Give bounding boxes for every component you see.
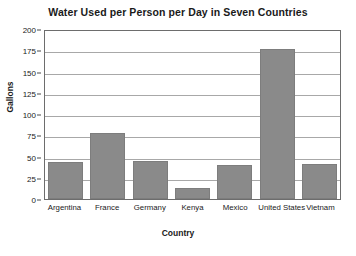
y-tick-label: 200 bbox=[23, 26, 36, 35]
chart-figure: Water Used per Person per Day in Seven C… bbox=[0, 0, 356, 256]
x-tick-label: Germany bbox=[130, 203, 169, 212]
y-tick-mark bbox=[37, 72, 41, 73]
x-tick-label: United States bbox=[258, 203, 297, 212]
bar-series bbox=[45, 31, 340, 199]
y-tick-label: 50 bbox=[27, 153, 36, 162]
x-axis-title: Country bbox=[0, 228, 356, 238]
y-axis-tick-labels: 0255075100125150175200 bbox=[0, 30, 41, 200]
bar-united-states bbox=[260, 49, 295, 199]
y-tick-label: 0 bbox=[32, 196, 36, 205]
y-tick-label: 75 bbox=[27, 132, 36, 141]
y-tick-label: 25 bbox=[27, 174, 36, 183]
bar-argentina bbox=[48, 162, 83, 199]
x-axis-tick-labels: ArgentinaFranceGermanyKenyaMexicoUnited … bbox=[44, 203, 341, 212]
bar-vietnam bbox=[302, 164, 337, 199]
y-tick-mark bbox=[37, 93, 41, 94]
chart-title: Water Used per Person per Day in Seven C… bbox=[0, 6, 356, 18]
y-tick-mark bbox=[37, 136, 41, 137]
bar-mexico bbox=[217, 165, 252, 199]
x-tick-label: Kenya bbox=[173, 203, 212, 212]
x-tick-label: France bbox=[88, 203, 127, 212]
y-tick-mark bbox=[37, 178, 41, 179]
plot-area bbox=[44, 30, 341, 200]
bar-kenya bbox=[175, 188, 210, 199]
bar-france bbox=[90, 133, 125, 199]
x-tick-label: Vietnam bbox=[301, 203, 340, 212]
y-tick-mark bbox=[37, 51, 41, 52]
y-tick-label: 100 bbox=[23, 111, 36, 120]
y-tick-label: 175 bbox=[23, 47, 36, 56]
y-tick-mark bbox=[37, 200, 41, 201]
y-tick-mark bbox=[37, 115, 41, 116]
bar-germany bbox=[133, 161, 168, 199]
x-tick-label: Argentina bbox=[45, 203, 84, 212]
y-tick-label: 150 bbox=[23, 68, 36, 77]
y-tick-label: 125 bbox=[23, 89, 36, 98]
y-tick-mark bbox=[37, 157, 41, 158]
y-tick-mark bbox=[37, 30, 41, 31]
x-tick-label: Mexico bbox=[216, 203, 255, 212]
